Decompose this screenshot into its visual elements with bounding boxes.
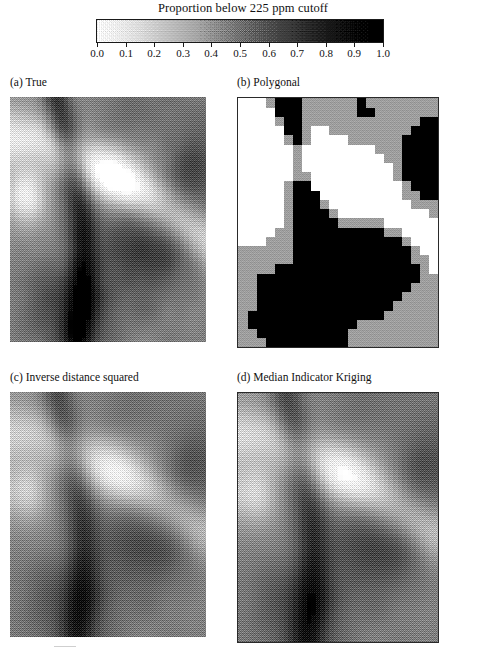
panel-label-d: (d) Median Indicator Kriging [237,371,371,383]
panel-label-c: (c) Inverse distance squared [10,371,139,383]
map-canvas-inverse-distance-squared [10,392,206,637]
map-canvas-polygonal [237,97,439,348]
map-canvas-median-indicator-kriging [237,392,439,643]
figure-canvas: Proportion below 225 ppm cutoff 0.00.10.… [0,0,486,652]
colorbar-tick-label: 0.9 [339,47,369,59]
colorbar-tick-label: 0.1 [111,47,141,59]
colorbar-tick-label: 0.6 [254,47,284,59]
panel-label-a: (a) True [10,76,47,88]
colorbar-tick-label: 0.4 [196,47,226,59]
map-polygonal [237,97,439,348]
map-median-indicator-kriging [237,392,439,643]
colorbar-tick-label: 0.8 [311,47,341,59]
map-true [10,97,206,342]
colorbar-tick-label: 0.5 [225,47,255,59]
colorbar-tick-label: 0.3 [168,47,198,59]
map-canvas-true [10,97,206,342]
colorbar-tick-label: 1.0 [368,47,398,59]
colorbar-tick-label: 0.7 [282,47,312,59]
colorbar-gradient [96,19,384,43]
colorbar-title: Proportion below 225 ppm cutoff [0,1,486,16]
colorbar-block: Proportion below 225 ppm cutoff 0.00.10.… [0,0,486,66]
scan-artifact [54,646,76,647]
colorbar-tick-label: 0.0 [82,47,112,59]
map-inverse-distance-squared [10,392,206,637]
panel-label-b: (b) Polygonal [237,76,300,88]
colorbar [96,19,384,43]
colorbar-tick-labels: 0.00.10.20.30.40.50.60.70.80.91.0 [96,47,384,63]
colorbar-tick-label: 0.2 [139,47,169,59]
